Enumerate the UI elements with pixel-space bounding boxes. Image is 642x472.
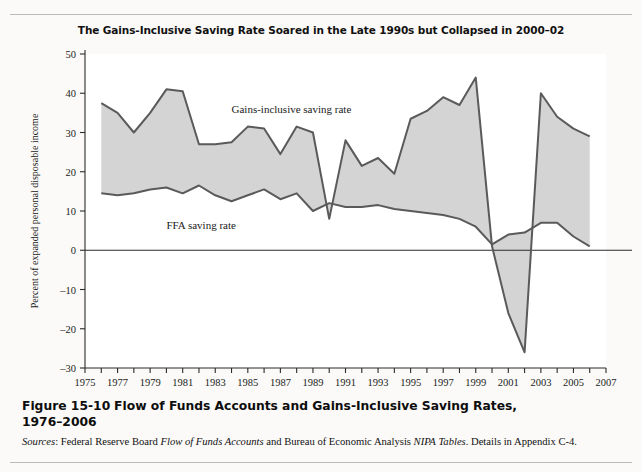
x-axis-tick-label: 1987 bbox=[270, 377, 291, 388]
x-axis-tick-label: 1993 bbox=[368, 377, 389, 388]
sources-italic-1: Flow of Funds Accounts bbox=[160, 436, 263, 447]
caption-sources: Sources: Federal Reserve Board Flow of F… bbox=[22, 435, 624, 450]
chart-title: The Gains-Inclusive Saving Rate Soared i… bbox=[0, 24, 642, 36]
sources-text-1: : Federal Reserve Board bbox=[55, 436, 160, 447]
chart-plot: –30–20–100102030405019751977197919811983… bbox=[0, 38, 642, 390]
y-axis-tick-label: 50 bbox=[66, 49, 77, 60]
y-axis-tick-label: 40 bbox=[66, 88, 77, 99]
x-axis-tick-label: 1975 bbox=[75, 377, 96, 388]
series-annotation-gains-inclusive: Gains-inclusive saving rate bbox=[232, 103, 352, 115]
figure-caption: Figure 15-10 Flow of Funds Accounts and … bbox=[22, 398, 624, 450]
x-axis-tick-label: 2001 bbox=[498, 377, 519, 388]
x-axis-tick-label: 2005 bbox=[563, 377, 584, 388]
x-axis-tick-label: 2003 bbox=[530, 377, 551, 388]
y-axis-tick-label: –10 bbox=[59, 285, 76, 296]
y-axis-tick-label: –20 bbox=[59, 324, 76, 335]
sources-text-2: and Bureau of Economic Analysis bbox=[264, 436, 414, 447]
top-rule bbox=[10, 14, 632, 15]
y-axis-tick-label: 20 bbox=[66, 167, 77, 178]
x-axis-tick-label: 2007 bbox=[596, 377, 617, 388]
x-axis-tick-label: 1985 bbox=[237, 377, 258, 388]
series-annotation-ffa: FFA saving rate bbox=[166, 219, 236, 231]
caption-title-line2: 1976–2006 bbox=[22, 415, 97, 429]
sources-text-3: . Details in Appendix C-4. bbox=[466, 436, 577, 447]
x-axis-tick-label: 1979 bbox=[140, 377, 161, 388]
x-axis-tick-label: 1995 bbox=[400, 377, 421, 388]
x-axis-tick-label: 1977 bbox=[107, 377, 128, 388]
y-axis-tick-label: –30 bbox=[59, 363, 76, 374]
sources-label: Sources bbox=[22, 436, 55, 447]
figure-panel: The Gains-Inclusive Saving Rate Soared i… bbox=[0, 0, 642, 472]
caption-title-line1: Flow of Funds Accounts and Gains-Inclusi… bbox=[114, 399, 517, 413]
x-axis-tick-label: 1981 bbox=[172, 377, 193, 388]
y-axis-tick-label: 0 bbox=[71, 245, 76, 256]
sources-italic-2: NIPA bbox=[414, 436, 436, 447]
x-axis-tick-label: 1991 bbox=[335, 377, 356, 388]
x-axis-tick-label: 1989 bbox=[302, 377, 323, 388]
y-axis-title: Percent of expanded personal disposable … bbox=[29, 113, 40, 308]
y-axis-tick-label: 10 bbox=[66, 206, 77, 217]
x-axis-tick-label: 1997 bbox=[433, 377, 454, 388]
y-axis-tick-label: 30 bbox=[66, 128, 77, 139]
bottom-rule bbox=[10, 462, 632, 463]
x-axis-tick-label: 1999 bbox=[465, 377, 486, 388]
caption-figure-number: Figure 15-10 bbox=[22, 399, 110, 413]
x-axis-tick-label: 1983 bbox=[205, 377, 226, 388]
caption-main: Figure 15-10 Flow of Funds Accounts and … bbox=[22, 398, 624, 430]
sources-italic-3: Tables bbox=[438, 436, 465, 447]
